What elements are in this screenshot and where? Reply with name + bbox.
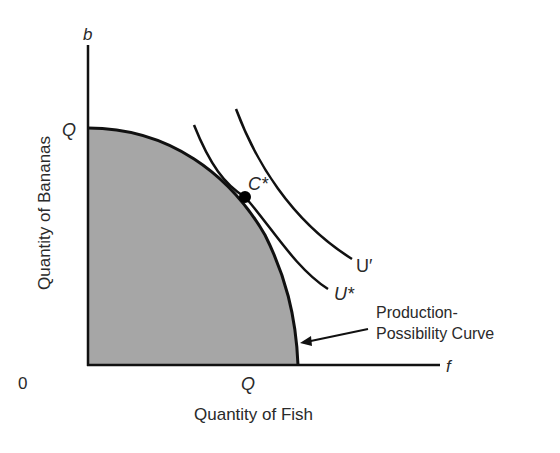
y-axis-title: Quantity of Bananas	[35, 136, 54, 290]
ppc-annotation-arrow	[306, 329, 368, 342]
curve-label-u-prime: U′	[356, 256, 373, 276]
ppc-label-line1: Production-	[376, 304, 458, 321]
x-axis-symbol: f	[446, 357, 453, 376]
ppc-label-line2: Possibility Curve	[376, 325, 494, 342]
point-label-c-star: C*	[248, 174, 269, 194]
curve-label-u-star: U*	[334, 284, 355, 304]
x-axis-title: Quantity of Fish	[194, 405, 313, 424]
x-intercept-label: Q	[241, 374, 255, 394]
feasible-region	[88, 128, 298, 365]
arrowhead-icon	[300, 336, 312, 346]
y-intercept-label: Q	[62, 120, 76, 140]
y-axis-symbol: b	[83, 25, 92, 44]
origin-label: 0	[18, 374, 27, 393]
ppc-diagram: b f 0 Q Q C* U′ U* Production- Possibili…	[0, 0, 560, 453]
